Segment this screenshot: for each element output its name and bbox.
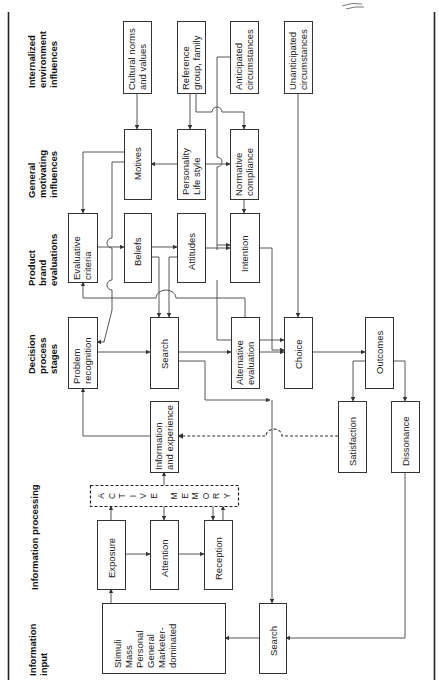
svg-text:Life style: Life style [191, 158, 202, 196]
svg-text:environment: environment [37, 30, 48, 88]
svg-text:M: M [169, 492, 179, 499]
svg-text:Internalized: Internalized [26, 35, 37, 88]
box-reception: Reception [205, 521, 233, 590]
box-exposure: Exposure [98, 521, 126, 590]
svg-text:Search: Search [159, 339, 170, 369]
svg-text:E: E [149, 493, 159, 499]
svg-text:stages: stages [48, 344, 59, 374]
box-satisfaction: Satisfaction [339, 402, 367, 473]
box-unanticipated-circumstances: Unanticipated circumstances [285, 22, 313, 94]
svg-text:Alternative: Alternative [234, 340, 245, 385]
svg-text:Problem: Problem [71, 349, 82, 384]
svg-text:Information: Information [153, 422, 164, 470]
svg-text:input: input [38, 652, 49, 676]
box-search: Search [151, 318, 179, 389]
svg-text:Exposure: Exposure [106, 538, 117, 578]
box-dissonance: Dissonance [392, 402, 420, 473]
svg-text:T: T [117, 493, 127, 498]
svg-text:Motives: Motives [132, 147, 143, 180]
box-information-and-experience: Information and experience [151, 402, 179, 473]
box-intention: Intention [231, 214, 260, 283]
box-alternative-evaluation: Alternative evaluation [232, 318, 260, 389]
svg-text:Reception: Reception [213, 537, 224, 580]
svg-text:V: V [138, 493, 148, 499]
svg-text:compliance: compliance [244, 148, 255, 196]
svg-text:Anticipated: Anticipated [233, 43, 244, 90]
box-attention: Attention [151, 521, 179, 590]
svg-text:Evaluative: Evaluative [71, 236, 82, 280]
svg-text:Marketer-: Marketer- [156, 627, 167, 668]
svg-text:Personal: Personal [134, 631, 145, 669]
svg-text:Choice: Choice [293, 339, 304, 369]
svg-text:Mass: Mass [123, 645, 134, 668]
svg-text:Beliefs: Beliefs [132, 237, 143, 266]
box-cultural-norms: Cultural norms and values [124, 22, 152, 94]
svg-text:dominated: dominated [167, 624, 178, 668]
svg-text:Outcomes: Outcomes [374, 330, 385, 374]
svg-text:Attitudes: Attitudes [186, 233, 197, 270]
box-beliefs: Beliefs [125, 214, 152, 283]
box-choice: Choice [285, 318, 313, 389]
svg-text:General: General [145, 634, 156, 668]
svg-text:A: A [96, 493, 106, 499]
svg-text:evaluations: evaluations [48, 234, 59, 286]
svg-text:Decision: Decision [26, 334, 37, 374]
svg-text:Information processing: Information processing [29, 484, 40, 590]
svg-text:Y: Y [222, 493, 232, 499]
svg-text:O: O [201, 492, 211, 499]
svg-text:influences: influences [48, 151, 59, 198]
svg-text:Information: Information [27, 624, 38, 676]
svg-text:criteria: criteria [82, 251, 93, 280]
svg-text:evaluation: evaluation [245, 342, 256, 385]
svg-text:Reference: Reference [180, 46, 191, 90]
svg-text:Dissonance: Dissonance [400, 416, 411, 466]
svg-text:Personality: Personality [180, 148, 191, 195]
box-evaluative-criteria: Evaluative criteria [69, 214, 98, 283]
box-stimuli: Stimuli Mass Personal General Marketer- … [103, 604, 226, 674]
svg-text:recognition: recognition [82, 338, 93, 384]
box-anticipated-circumstances: Anticipated circumstances [231, 22, 259, 94]
svg-text:process: process [37, 338, 48, 374]
box-search-external: Search [260, 604, 287, 674]
box-active-memory: ACTIVEMEMORY [91, 486, 239, 507]
svg-text:M: M [190, 492, 200, 499]
svg-text:group, family: group, family [191, 35, 202, 90]
header-information-processing: Information processing [29, 484, 40, 590]
svg-text:Search: Search [268, 626, 279, 656]
svg-text:circumstances: circumstances [298, 29, 309, 90]
svg-text:Satisfaction: Satisfaction [347, 417, 358, 466]
svg-text:circumstances: circumstances [244, 29, 255, 90]
header-decision-process-stages: Decision process stages [26, 334, 59, 374]
svg-text:Product: Product [26, 249, 37, 286]
consumer-decision-model-diagram: Internalized environment influences Gene… [0, 0, 439, 697]
svg-text:and experience: and experience [164, 405, 175, 470]
svg-text:General: General [26, 163, 37, 198]
header-internalized-environment: Internalized environment influences [26, 30, 59, 88]
box-normative-compliance: Normative compliance [231, 130, 259, 200]
svg-text:motivating: motivating [37, 150, 48, 198]
svg-text:Stimuli: Stimuli [112, 639, 123, 668]
box-attitudes: Attitudes [178, 214, 206, 283]
handwritten-mark [342, 3, 364, 9]
svg-text:influences: influences [48, 41, 59, 88]
box-outcomes: Outcomes [366, 318, 394, 389]
svg-text:Unanticipated: Unanticipated [287, 32, 298, 90]
svg-text:brand: brand [37, 259, 48, 286]
svg-text:C: C [107, 493, 117, 499]
header-information-input: Information input [27, 624, 49, 676]
svg-text:I: I [128, 495, 138, 497]
header-product-brand-evaluations: Product brand evaluations [26, 234, 59, 286]
svg-text:Cultural norms: Cultural norms [126, 28, 137, 90]
box-reference-group: Reference group, family [178, 22, 206, 94]
box-problem-recognition: Problem recognition [69, 318, 98, 389]
box-personality-lifestyle: Personality Life style [178, 130, 206, 200]
svg-text:and values: and values [137, 44, 148, 90]
svg-text:E: E [180, 493, 190, 499]
header-general-motivating: General motivating influences [26, 150, 59, 198]
svg-text:R: R [211, 493, 221, 499]
svg-text:Intention: Intention [239, 236, 250, 272]
box-motives: Motives [125, 130, 152, 200]
svg-text:Attention: Attention [159, 540, 170, 578]
svg-text:Normative: Normative [233, 153, 244, 196]
